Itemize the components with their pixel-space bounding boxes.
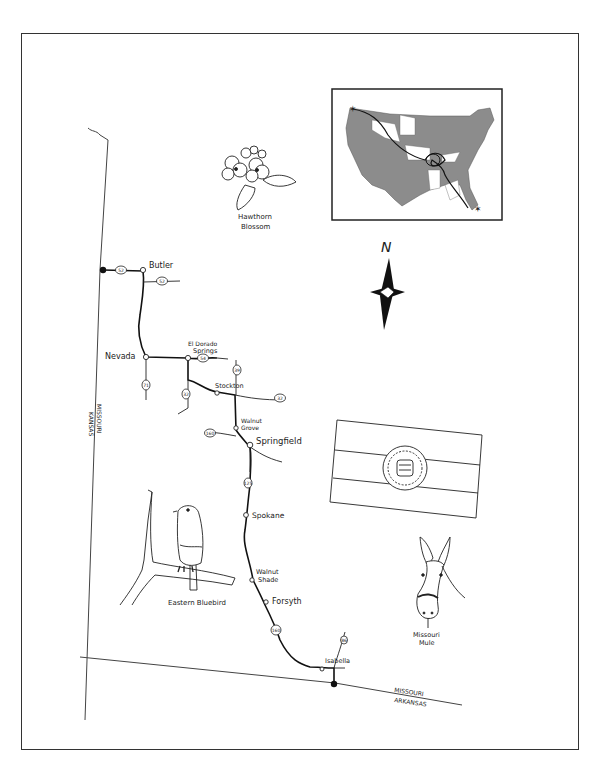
svg-text:32: 32 (277, 396, 283, 401)
svg-text:Grove: Grove (241, 424, 259, 431)
svg-text:52: 52 (159, 279, 165, 284)
svg-text:Walnut: Walnut (256, 568, 279, 576)
svg-text:160: 160 (206, 431, 215, 436)
svg-text:39: 39 (234, 368, 240, 373)
svg-text:32: 32 (183, 392, 189, 397)
route-shield: 71 (142, 380, 150, 390)
route-shield: 160 (271, 625, 281, 635)
start-point-dot (100, 267, 106, 273)
route-shield: 86 (341, 636, 348, 644)
svg-text:Walnut: Walnut (241, 417, 262, 424)
missouri-flag-illustration (330, 420, 482, 518)
svg-text:86: 86 (341, 638, 347, 643)
missouri-west-label: MISSOURI (96, 404, 103, 434)
route-shield: 32 (182, 389, 190, 399)
svg-text:Springfield: Springfield (256, 436, 302, 446)
end-point-dot (331, 681, 337, 687)
hawthorn-blossom-illustration (222, 146, 296, 210)
kansas-label: KANSAS (88, 412, 95, 436)
secondary-roads (143, 281, 345, 668)
town-nevada[interactable]: Nevada (105, 352, 149, 361)
route-line (103, 270, 334, 684)
svg-text:71: 71 (143, 383, 149, 388)
svg-text:125: 125 (244, 481, 253, 486)
svg-text:Butler: Butler (149, 261, 174, 270)
town-spokane[interactable]: Spokane (244, 511, 285, 520)
mule-label-line1: Missouri (413, 631, 440, 639)
svg-text:Springs: Springs (193, 347, 218, 355)
missouri-route-map: KANSAS MISSOURI MISSOURI ARKANSAS 52 52 … (0, 0, 603, 772)
compass-rose-icon: N (370, 239, 405, 330)
route-shield: 39 (233, 365, 241, 375)
svg-text:Shade: Shade (258, 576, 278, 584)
missouri-mule-illustration (417, 537, 465, 628)
route-shield: 52 (157, 277, 168, 285)
svg-text:Stockton: Stockton (215, 382, 244, 390)
svg-text:Nevada: Nevada (105, 352, 136, 361)
inset-end-star-icon: ✶ (474, 204, 482, 214)
svg-text:Isabella: Isabella (325, 657, 350, 665)
svg-text:52: 52 (118, 268, 124, 273)
route-shields: 52 52 54 71 32 39 32 160 125 160 86 (116, 266, 348, 644)
svg-text:Forsyth: Forsyth (272, 597, 302, 606)
hawthorn-label-line2: Blossom (241, 223, 271, 231)
inset-start-star-icon: ✶ (349, 104, 357, 114)
town-walnut-grove[interactable]: Walnut Grove (234, 417, 263, 431)
town-forsyth[interactable]: Forsyth (264, 597, 302, 606)
route-shield: 32 (275, 394, 286, 402)
town-stockton[interactable]: Stockton (215, 382, 244, 395)
svg-text:Spokane: Spokane (252, 511, 285, 520)
svg-text:160: 160 (272, 628, 281, 633)
town-springfield[interactable]: Springfield (247, 436, 302, 448)
us-inset-map: ✶ ✶ (332, 89, 502, 220)
svg-text:El Dorado: El Dorado (188, 340, 218, 347)
town-isabella[interactable]: Isabella (320, 657, 350, 671)
svg-text:54: 54 (200, 356, 206, 361)
hawthorn-label-line1: Hawthorn (238, 213, 272, 221)
route-shield: 52 (116, 266, 127, 274)
north-label: N (381, 239, 392, 255)
route-shield: 125 (244, 478, 253, 488)
bluebird-label: Eastern Bluebird (168, 599, 226, 607)
route-shield: 160 (205, 429, 216, 437)
mule-label-line2: Mule (419, 639, 435, 647)
town-butler[interactable]: Butler (140, 261, 173, 273)
towns: Butler Nevada El Dorado Springs Stockton… (105, 261, 350, 671)
route-shield: 54 (198, 354, 209, 362)
eastern-bluebird-illustration (120, 490, 235, 605)
